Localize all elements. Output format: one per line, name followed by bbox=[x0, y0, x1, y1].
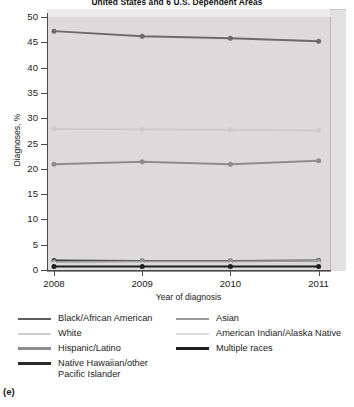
series-group bbox=[52, 29, 322, 44]
series-line bbox=[54, 129, 319, 131]
data-point-marker bbox=[228, 162, 233, 167]
legend-color-swatch bbox=[176, 318, 209, 321]
data-point-marker bbox=[140, 159, 145, 164]
data-point-marker bbox=[228, 264, 233, 269]
legend-item[interactable]: Multiple races bbox=[176, 343, 354, 354]
data-point-marker bbox=[52, 162, 57, 167]
series-group bbox=[52, 126, 322, 133]
series-group bbox=[52, 158, 322, 167]
figure-label: (e) bbox=[3, 386, 15, 397]
legend-color-swatch bbox=[176, 333, 209, 336]
data-point-marker bbox=[52, 126, 57, 131]
legend-item-label: Hispanic/Latino bbox=[58, 343, 121, 354]
legend-item-label: Native Hawaiian/other Pacific Islander bbox=[58, 358, 148, 381]
legend-item[interactable]: Asian bbox=[176, 313, 354, 324]
legend-item-label: Asian bbox=[216, 313, 239, 324]
data-point-marker bbox=[316, 264, 321, 269]
x-axis-title: Year of diagnosis bbox=[47, 292, 330, 302]
data-point-marker bbox=[52, 29, 57, 34]
legend-item-label: White bbox=[58, 328, 82, 339]
series-line bbox=[54, 264, 319, 265]
data-point-marker bbox=[140, 127, 145, 132]
legend-color-swatch bbox=[18, 362, 51, 365]
legend-column-right: AsianAmerican Indian/Alaska NativeMultip… bbox=[176, 313, 354, 358]
y-axis-title: Diagnoses, % bbox=[12, 85, 22, 195]
data-point-marker bbox=[228, 127, 233, 132]
data-point-marker bbox=[140, 34, 145, 39]
legend-item[interactable]: American Indian/Alaska Native bbox=[176, 328, 354, 339]
line-chart-figure: 05101520253035404550 2008200920102011 Ye… bbox=[0, 0, 354, 310]
legend-column-left: Black/African AmericanWhiteHispanic/Lati… bbox=[18, 313, 168, 384]
legend-item[interactable]: White bbox=[18, 328, 168, 339]
legend-item[interactable]: Native Hawaiian/other Pacific Islander bbox=[18, 358, 168, 381]
legend-item-label: Multiple races bbox=[216, 343, 273, 354]
data-point-marker bbox=[140, 264, 145, 269]
data-point-marker bbox=[316, 158, 321, 163]
series-line bbox=[54, 161, 319, 165]
data-point-marker bbox=[316, 128, 321, 133]
data-point-marker bbox=[228, 36, 233, 41]
series-plot-lines bbox=[0, 0, 354, 310]
legend-item-label: Black/African American bbox=[58, 313, 152, 324]
legend-item[interactable]: Hispanic/Latino bbox=[18, 343, 168, 354]
legend-color-swatch bbox=[18, 333, 51, 336]
legend-color-swatch bbox=[18, 347, 51, 350]
data-point-marker bbox=[52, 264, 57, 269]
legend-color-swatch bbox=[176, 347, 209, 350]
chart-legend: Black/African AmericanWhiteHispanic/Lati… bbox=[0, 313, 354, 391]
series-line bbox=[54, 261, 319, 262]
legend-item-label: American Indian/Alaska Native bbox=[216, 328, 341, 339]
series-line bbox=[54, 31, 319, 41]
legend-item[interactable]: Black/African American bbox=[18, 313, 168, 324]
data-point-marker bbox=[316, 39, 321, 44]
legend-color-swatch bbox=[18, 318, 51, 321]
